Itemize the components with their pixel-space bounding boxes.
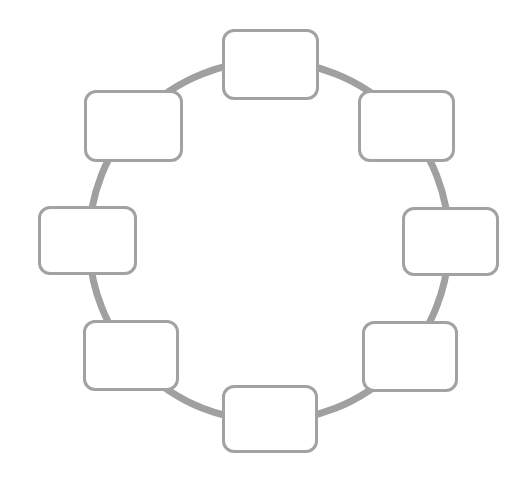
node-top-left[interactable] — [84, 90, 183, 162]
node-right[interactable] — [402, 207, 499, 276]
cycle-diagram — [0, 0, 530, 481]
node-bottom-right[interactable] — [362, 321, 458, 392]
node-top[interactable] — [222, 29, 319, 100]
node-top-right[interactable] — [358, 90, 455, 162]
node-bottom[interactable] — [222, 385, 318, 453]
node-bottom-left[interactable] — [83, 320, 179, 391]
node-left[interactable] — [38, 206, 137, 275]
